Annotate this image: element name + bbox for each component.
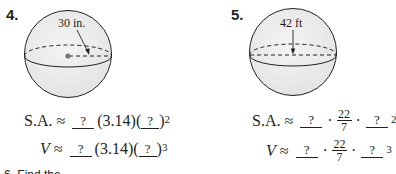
volume-label: V — [266, 142, 276, 160]
answer-blank-radius[interactable]: ? — [361, 143, 383, 158]
cutoff-next-problem: 6. Find the — [4, 168, 61, 174]
multiply-dot: · — [356, 112, 361, 130]
radius-label-5: 42 ft — [280, 16, 302, 31]
answer-blank-radius[interactable]: ? — [366, 113, 388, 128]
sa-label: S.A. — [24, 112, 52, 130]
volume-equation-5: V ≈ ? · 22 7 · ? 3 — [266, 138, 392, 163]
pi-value: (3.14) — [97, 112, 136, 130]
multiply-dot: · — [323, 142, 328, 160]
pi-fraction: 22 7 — [332, 138, 347, 163]
exponent: 3 — [386, 143, 392, 155]
approx-symbol: ≈ — [280, 142, 289, 160]
surface-area-equation-4: S.A. ≈ ? (3.14) (?) 2 — [24, 112, 170, 130]
numerator: 22 — [338, 108, 350, 120]
surface-area-equation-5: S.A. ≈ ? · 22 7 · ? 2 — [252, 108, 396, 133]
exponent: 2 — [391, 113, 396, 125]
multiply-dot: · — [351, 142, 356, 160]
approx-symbol: ≈ — [56, 112, 65, 130]
denominator: 7 — [336, 151, 342, 163]
answer-blank-coefficient[interactable]: ? — [296, 143, 318, 158]
exponent: 2 — [165, 113, 171, 125]
approx-symbol: ≈ — [54, 140, 63, 158]
volume-equation-4: V ≈ ? (3.14) (?) 3 — [40, 140, 167, 158]
problem-5-number: 5. — [231, 6, 244, 23]
pi-value: (3.14) — [95, 140, 134, 158]
problem-4-number: 4. — [6, 6, 19, 23]
approx-symbol: ≈ — [284, 112, 293, 130]
answer-blank-radius[interactable]: ? — [141, 114, 159, 129]
numerator: 22 — [333, 138, 345, 150]
answer-blank-radius[interactable]: ? — [139, 142, 157, 157]
sa-label: S.A. — [252, 112, 280, 130]
pi-fraction: 22 7 — [337, 108, 352, 133]
multiply-dot: · — [327, 112, 332, 130]
volume-label: V — [40, 140, 50, 158]
exponent: 3 — [162, 141, 168, 153]
answer-blank-coefficient[interactable]: ? — [300, 113, 322, 128]
center-point — [65, 53, 70, 58]
answer-blank-coefficient[interactable]: ? — [70, 142, 92, 157]
answer-blank-coefficient[interactable]: ? — [72, 114, 94, 129]
denominator: 7 — [341, 121, 347, 133]
radius-label-4: 30 in. — [58, 16, 85, 31]
